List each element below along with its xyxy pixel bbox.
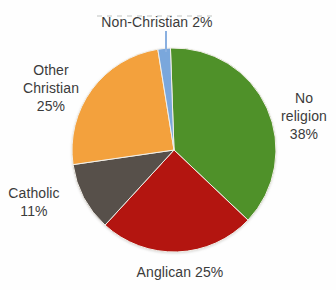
label-line: religion xyxy=(266,107,336,125)
label-line: Catholic xyxy=(1,184,67,202)
label-line: 11% xyxy=(1,202,67,220)
label-line: 25% xyxy=(10,97,92,115)
label-line: Non-Christian 2% xyxy=(95,13,219,31)
slice-label-no-religion: No religion 38% xyxy=(266,89,336,143)
leader-line-non-christian xyxy=(165,31,167,52)
label-line: Other xyxy=(10,61,92,79)
slice-label-anglican: Anglican 25% xyxy=(110,263,250,281)
label-line: 38% xyxy=(266,125,336,143)
slice-label-non-christian: Non-Christian 2% xyxy=(95,13,219,31)
label-line: Anglican 25% xyxy=(110,263,250,281)
pie-chart xyxy=(0,0,336,290)
slice-label-catholic: Catholic 11% xyxy=(1,184,67,220)
label-line: No xyxy=(266,89,336,107)
pie-chart-figure: Non-Christian 2% Other Christian 25% No … xyxy=(0,0,336,290)
slice-label-other-christian: Other Christian 25% xyxy=(10,61,92,115)
label-line: Christian xyxy=(10,79,92,97)
